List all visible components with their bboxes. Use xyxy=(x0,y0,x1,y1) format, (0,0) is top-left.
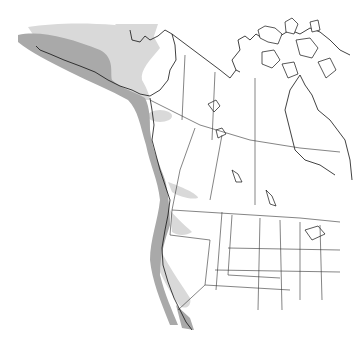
range-map xyxy=(0,0,356,353)
arctic-islands xyxy=(258,18,336,78)
political-borders xyxy=(150,55,340,310)
